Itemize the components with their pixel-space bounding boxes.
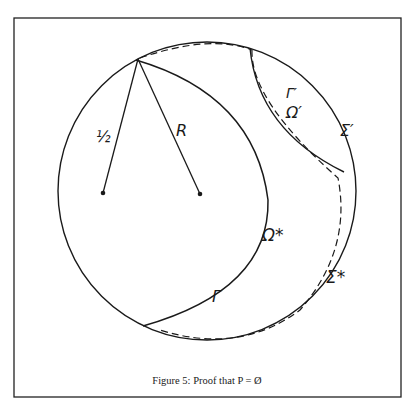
- geometry-diagram: ½ R Γ′ Ω′ Σ′ Ω* Σ* Γ: [0, 0, 414, 412]
- label-gamma-prime: Γ′: [286, 85, 298, 101]
- label-sigma-star: Σ*: [326, 267, 345, 287]
- label-omega-prime: Ω′: [285, 103, 302, 122]
- label-gamma: Γ: [212, 287, 222, 306]
- label-omega-star: Ω*: [261, 225, 284, 245]
- proof-figure: ½ R Γ′ Ω′ Σ′ Ω* Σ* Γ Figure 5: Proof tha…: [0, 0, 414, 412]
- label-sigma-prime: Σ′: [340, 121, 354, 140]
- label-R: R: [176, 121, 187, 140]
- label-half: ½: [96, 128, 111, 146]
- radius-R: [138, 59, 200, 194]
- center-point-half: [101, 191, 106, 196]
- center-point-R: [198, 192, 203, 197]
- figure-caption: Figure 5: Proof that P = Ø: [0, 375, 414, 386]
